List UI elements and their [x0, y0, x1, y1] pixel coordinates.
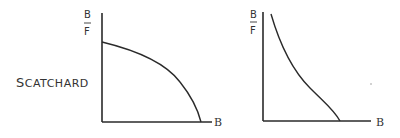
scan-speck: [370, 83, 372, 85]
left-scatchard-curve: [102, 42, 201, 122]
right-x-label: B: [376, 116, 384, 129]
left-y-label-denominator: F: [84, 26, 90, 37]
right-plot: B F B: [250, 9, 384, 129]
right-scatchard-curve: [271, 14, 340, 121]
left-plot: B F B: [84, 9, 222, 129]
right-y-label-denominator: F: [250, 25, 256, 36]
right-y-label-numerator: B: [250, 9, 257, 20]
left-x-label: B: [214, 116, 222, 129]
scatchard-plots: B F B B F B: [0, 0, 400, 138]
left-y-label-numerator: B: [84, 9, 91, 20]
